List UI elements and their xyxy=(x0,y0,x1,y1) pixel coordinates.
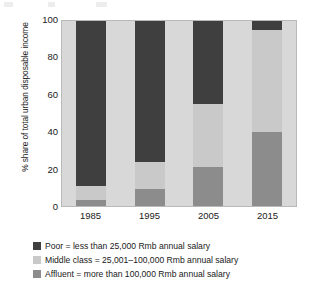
y-tick-20: 20 xyxy=(47,165,58,175)
y-tick-100: 100 xyxy=(42,15,58,25)
bar-segment-2015-affluent xyxy=(252,132,282,206)
y-tick-40: 40 xyxy=(47,127,58,137)
y-axis-title: % share of total urban disposable income xyxy=(20,2,30,192)
x-tick-2015: 2015 xyxy=(257,210,278,221)
bar-2005 xyxy=(193,21,223,206)
y-axis-tick-labels: 100 80 60 40 20 0 xyxy=(30,20,58,207)
bar-2015 xyxy=(252,21,282,206)
x-tick-1985: 1985 xyxy=(80,210,101,221)
chart-legend: Poor = less than 25,000 Rmb annual salar… xyxy=(33,239,303,281)
x-tick-2005: 2005 xyxy=(198,210,219,221)
bar-segment-2005-affluent xyxy=(193,167,223,206)
x-tick-1995: 1995 xyxy=(139,210,160,221)
bar-segment-2005-poor xyxy=(193,21,223,104)
bar-1995 xyxy=(135,21,165,206)
legend-swatch-poor xyxy=(33,242,41,250)
legend-label-middle-class: Middle class = 25,001–100,000 Rmb annual… xyxy=(45,255,238,265)
y-tick-80: 80 xyxy=(47,52,58,62)
bar-segment-1985-middle-class xyxy=(76,186,106,201)
legend-item-middle-class: Middle class = 25,001–100,000 Rmb annual… xyxy=(33,253,303,267)
legend-item-affluent: Affluent = more than 100,000 Rmb annual … xyxy=(33,267,303,281)
bar-1985 xyxy=(76,21,106,206)
bar-segment-2015-poor xyxy=(252,21,282,30)
legend-label-poor: Poor = less than 25,000 Rmb annual salar… xyxy=(45,241,210,251)
x-axis-tick-labels: 1985 1995 2005 2015 xyxy=(61,210,297,226)
plot-wrapper: % share of total urban disposable income… xyxy=(0,0,315,232)
plot-area xyxy=(61,20,297,207)
y-tick-60: 60 xyxy=(47,90,58,100)
bar-segment-1995-affluent xyxy=(135,189,165,206)
legend-swatch-middle-class xyxy=(33,256,41,264)
y-tick-0: 0 xyxy=(53,202,58,212)
bar-segment-2015-middle-class xyxy=(252,30,282,132)
legend-item-poor: Poor = less than 25,000 Rmb annual salar… xyxy=(33,239,303,253)
bar-segment-1995-middle-class xyxy=(135,162,165,190)
bar-segment-2005-middle-class xyxy=(193,104,223,167)
bar-segment-1985-affluent xyxy=(76,200,106,206)
legend-label-affluent: Affluent = more than 100,000 Rmb annual … xyxy=(45,269,230,279)
bar-segment-1985-poor xyxy=(76,21,106,186)
stacked-bar-chart: % share of total urban disposable income… xyxy=(0,0,315,293)
bar-segment-1995-poor xyxy=(135,21,165,162)
legend-swatch-affluent xyxy=(33,270,41,278)
